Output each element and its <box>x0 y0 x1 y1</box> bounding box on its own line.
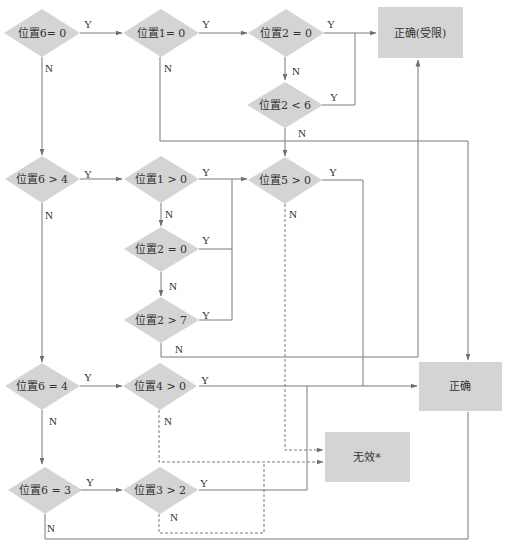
decision-pos6-eq-3: 位置6 = 3 <box>8 467 82 514</box>
label-y: Y <box>200 477 208 489</box>
label-n: N <box>47 522 55 534</box>
label-y: Y <box>329 166 337 178</box>
flowchart-canvas: Y N Y N Y N Y N Y N Y N Y N Y N Y N Y N … <box>0 0 514 549</box>
label-y: Y <box>86 476 94 488</box>
label-n: N <box>170 511 178 523</box>
label-y: Y <box>84 18 92 30</box>
decision-pos6-eq-4: 位置6 = 4 <box>5 363 80 410</box>
decision-pos1-gt-0: 位置1 > 0 <box>124 156 199 203</box>
edge-pos2lt6-y <box>322 33 355 105</box>
svg-text:位置2 < 6: 位置2 < 6 <box>259 98 311 112</box>
terminal-correct: 正确 <box>419 362 502 411</box>
label-y: Y <box>202 18 210 30</box>
svg-text:位置2 = 0: 位置2 = 0 <box>260 26 312 40</box>
decision-pos2-eq-0-b: 位置2 = 0 <box>124 227 199 272</box>
decision-pos2-lt-6: 位置2 < 6 <box>247 82 323 128</box>
svg-text:位置6 = 4: 位置6 = 4 <box>16 379 68 393</box>
svg-text:位置5 > 0: 位置5 > 0 <box>259 173 311 187</box>
label-n: N <box>45 209 53 221</box>
label-y: Y <box>84 371 92 383</box>
svg-text:位置3 > 2: 位置3 > 2 <box>134 483 186 497</box>
label-y: Y <box>202 234 210 246</box>
label-y: Y <box>330 91 338 103</box>
edge-pos4gt0-n <box>159 410 323 462</box>
decision-pos6-gt-4: 位置6 > 4 <box>5 156 80 203</box>
label-n: N <box>298 127 306 139</box>
decision-pos1-eq-0: 位置1= 0 <box>123 9 199 57</box>
decision-pos2-eq-0: 位置2 = 0 <box>248 9 324 57</box>
decision-pos5-gt-0: 位置5 > 0 <box>248 157 322 204</box>
terminal-invalid: 无效* <box>325 432 410 482</box>
label-y: Y <box>202 309 210 321</box>
label-n: N <box>165 208 173 220</box>
svg-text:正确: 正确 <box>449 380 471 393</box>
label-y: Y <box>201 374 209 386</box>
svg-text:位置6 > 4: 位置6 > 4 <box>16 172 68 186</box>
label-n: N <box>289 208 297 220</box>
label-y: Y <box>84 168 92 180</box>
svg-text:无效*: 无效* <box>353 450 381 464</box>
svg-text:正确(受限): 正确(受限) <box>394 27 447 40</box>
label-n: N <box>292 65 300 77</box>
svg-text:位置2 = 0: 位置2 = 0 <box>135 242 187 256</box>
svg-text:位置6= 0: 位置6= 0 <box>18 26 67 40</box>
svg-text:位置6 = 3: 位置6 = 3 <box>19 483 71 497</box>
label-n: N <box>45 62 53 74</box>
label-n: N <box>175 343 183 355</box>
svg-text:位置4 > 0: 位置4 > 0 <box>134 379 186 393</box>
edge-pos5gt0-n <box>285 204 323 450</box>
label-n: N <box>49 415 57 427</box>
svg-text:位置2 > 7: 位置2 > 7 <box>135 313 187 327</box>
label-y: Y <box>202 166 210 178</box>
label-n: N <box>169 280 177 292</box>
svg-text:位置1= 0: 位置1= 0 <box>137 26 186 40</box>
label-n: N <box>164 62 172 74</box>
edge-pos5gt0-y <box>322 180 363 386</box>
edge-pos3gt2-y <box>199 386 307 490</box>
decision-pos3-gt-2: 位置3 > 2 <box>123 467 198 514</box>
decision-pos2-gt-7: 位置2 > 7 <box>124 297 199 343</box>
label-y: Y <box>327 18 335 30</box>
svg-text:位置1 > 0: 位置1 > 0 <box>135 172 187 186</box>
decision-pos4-gt-0: 位置4 > 0 <box>123 363 197 410</box>
label-n: N <box>164 415 172 427</box>
decision-pos6-eq-0: 位置6= 0 <box>4 9 80 57</box>
terminal-correct-limited: 正确(受限) <box>378 7 463 58</box>
